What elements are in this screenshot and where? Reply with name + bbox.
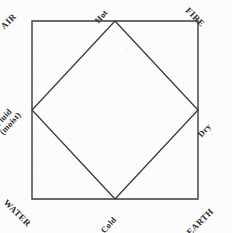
elements-diagram: AIR FIRE WATER EARTH Hot Cold Dry Fluid … (0, 0, 232, 233)
inner-diamond-shape (32, 21, 198, 199)
outer-square-shape (32, 21, 198, 199)
figure-canvas (0, 0, 232, 233)
